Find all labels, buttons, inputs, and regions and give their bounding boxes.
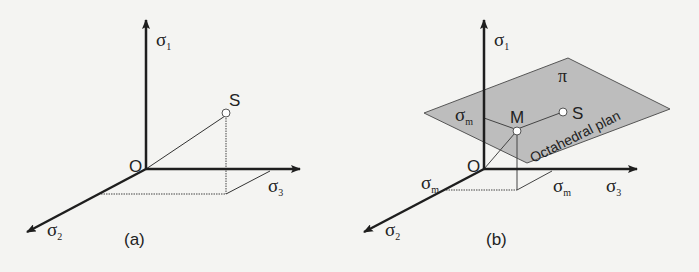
sigma3-label: σ3 <box>268 175 283 198</box>
point-s <box>222 109 230 117</box>
sigma2-label: σ2 <box>47 219 62 242</box>
sigma2-label: σ2 <box>385 219 400 242</box>
sigma2-axis <box>27 169 146 232</box>
pi-label: π <box>558 66 567 86</box>
point-m <box>513 127 521 135</box>
origin-label: O <box>129 157 142 176</box>
caption-b: (b) <box>486 230 507 249</box>
panel-a: S O σ1 σ3 σ2 (a) <box>27 20 300 249</box>
sigma-m-label-sigma3: σm <box>553 175 571 198</box>
point-s-label: S <box>572 104 583 123</box>
origin-label: O <box>467 157 480 176</box>
sigma-m-label-sigma2: σm <box>421 172 439 195</box>
panel-b: M S O π Octahedral plan σ1 σ3 σ2 σm σm σ… <box>364 20 670 249</box>
sigma3-label: σ3 <box>606 175 621 198</box>
projection-line-to-sigma3 <box>226 171 270 194</box>
point-s <box>559 108 567 116</box>
sigma1-label: σ1 <box>156 29 171 52</box>
projection-line-to-sigma3 <box>517 171 552 190</box>
caption-a: (a) <box>124 230 145 249</box>
sigma1-label: σ1 <box>494 29 509 52</box>
point-m-label: M <box>510 108 524 127</box>
point-s-label: S <box>229 91 240 110</box>
line-o-to-s <box>146 116 225 169</box>
stress-space-figure: S O σ1 σ3 σ2 (a) M S O π <box>0 0 699 272</box>
